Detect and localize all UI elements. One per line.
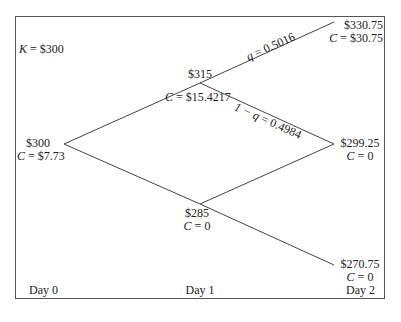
axis-label-day0: Day 0 — [29, 284, 58, 297]
node-day1-up-call: C = $15.4217 — [165, 91, 231, 104]
node-day2-uu: $330.75 C = $30.75 — [329, 19, 383, 45]
edge-down-ud — [200, 144, 334, 204]
node-day2-ud: $299.25 C = 0 — [336, 137, 384, 163]
node-day2-dd: $270.75 C = 0 — [336, 258, 384, 284]
axis-label-day2: Day 2 — [346, 284, 375, 297]
node-day1-down: $285 C = 0 — [172, 207, 222, 233]
node-call-value: C = $30.75 — [329, 32, 383, 45]
node-day0: $300 C = $7.73 — [17, 137, 59, 163]
node-call-value: C = 0 — [336, 150, 384, 163]
axis-label-day1: Day 1 — [178, 284, 222, 297]
node-call-value: C = $7.73 — [17, 150, 59, 163]
strike-label: K = $300 — [19, 43, 64, 56]
node-day1-up-price: $315 — [180, 68, 220, 81]
edge-d0-down — [64, 144, 200, 204]
node-call-value: C = 0 — [172, 220, 222, 233]
